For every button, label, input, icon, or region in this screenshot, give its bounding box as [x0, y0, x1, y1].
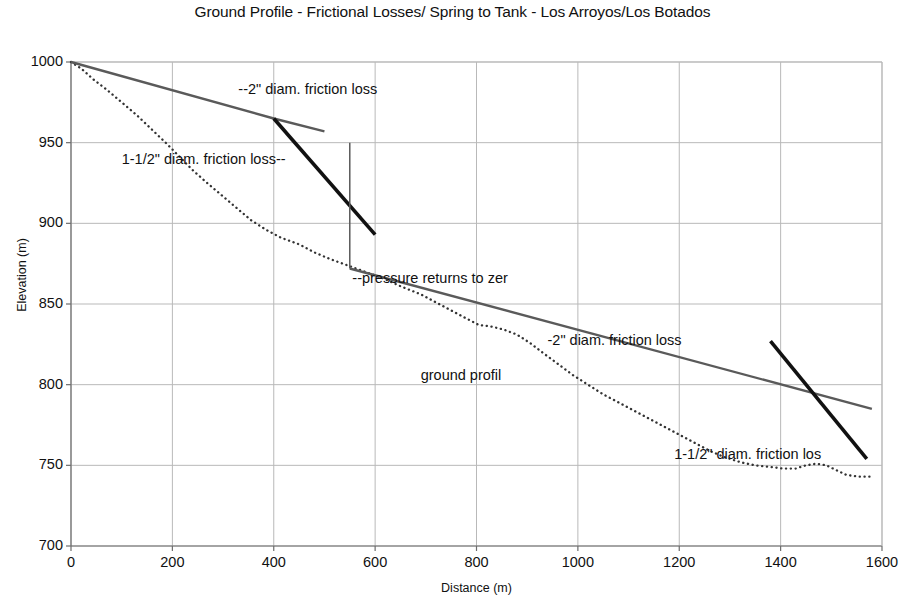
gridlines: [71, 62, 882, 546]
annot-ground-profile: ground profil: [421, 368, 502, 383]
annot-2in-lower: -2" diam. friction loss: [548, 333, 682, 348]
series-line-2: [274, 118, 375, 234]
axis-tick-marks: [66, 62, 882, 551]
plot-area: [0, 0, 905, 601]
annot-2in-upper: --2" diam. friction loss: [238, 82, 377, 97]
series-line-5: [770, 341, 866, 459]
chart-container: Ground Profile - Frictional Losses/ Spri…: [0, 0, 905, 601]
annot-pressure-zero: --pressure returns to zer: [352, 271, 508, 286]
annot-1p5in-lower: 1-1/2" diam. friction los: [674, 447, 821, 462]
annot-1p5in-upper: 1-1/2" diam. friction loss--: [122, 152, 286, 167]
